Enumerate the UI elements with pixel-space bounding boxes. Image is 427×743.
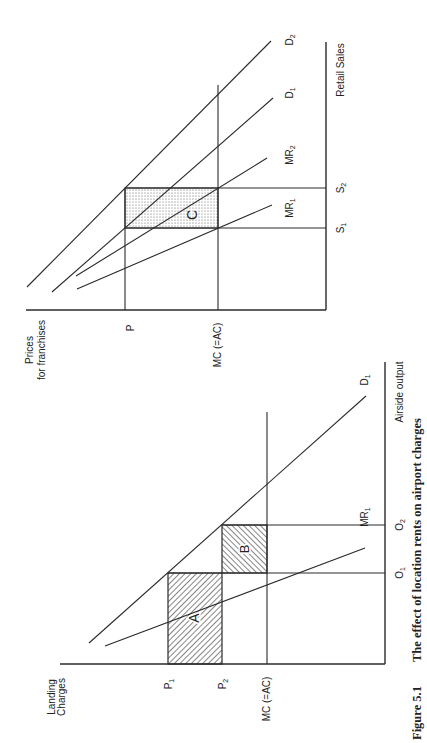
svg-text:MR1: MR1	[284, 198, 296, 218]
upper-d1-curve	[52, 98, 273, 292]
lower-label-d1: D1	[359, 374, 371, 385]
upper-tick-mc: MC (=AC)	[212, 323, 223, 368]
svg-text:D1: D1	[359, 374, 371, 385]
lower-tick-o1: O1	[394, 567, 406, 579]
svg-text:MR1: MR1	[359, 507, 371, 527]
lower-xlabel: Airside output	[394, 361, 405, 422]
figure-canvas: Prices for franchises P MC (=AC) S1 S2 R…	[0, 0, 427, 743]
lower-chart: Landing Charges P1 P2 MC (=AC) O1 O2 Air…	[46, 361, 406, 721]
svg-text:D1: D1	[284, 87, 296, 98]
upper-mr2-curve	[76, 158, 267, 276]
svg-text:P2: P2	[217, 679, 229, 690]
lower-tick-o2: O2	[394, 519, 406, 531]
lower-tick-mc: MC (=AC)	[261, 677, 272, 722]
upper-tick-s1: S1	[335, 223, 347, 234]
upper-label-d1: D1	[284, 87, 296, 98]
figure-number: Figure 5.1	[410, 686, 424, 740]
area-c	[125, 188, 218, 228]
svg-text:D2: D2	[284, 34, 296, 45]
upper-ylabel-line2: for franchises	[36, 320, 47, 380]
upper-tick-s2: S2	[335, 183, 347, 194]
figure-caption: Figure 5.1 The effect of location rents …	[410, 418, 424, 740]
lower-tick-p1: P1	[163, 679, 175, 690]
figure-svg: Prices for franchises P MC (=AC) S1 S2 R…	[0, 0, 427, 743]
upper-label-d2: D2	[284, 34, 296, 45]
upper-xlabel: Retail Sales	[335, 43, 346, 96]
upper-ylabel-line1: Prices	[24, 336, 35, 364]
upper-chart: Prices for franchises P MC (=AC) S1 S2 R…	[24, 34, 347, 380]
svg-text:O2: O2	[394, 519, 406, 531]
upper-tick-p: P	[125, 324, 136, 331]
svg-text:S1: S1	[335, 223, 347, 234]
lower-label-mr1: MR1	[359, 507, 371, 527]
upper-d2-curve	[27, 41, 271, 287]
lower-tick-p2: P2	[217, 679, 229, 690]
lower-area-b-label: B	[237, 545, 252, 554]
lower-d1-curve	[89, 396, 366, 643]
svg-text:O1: O1	[394, 567, 406, 579]
upper-area-c-label: C	[184, 210, 200, 220]
lower-ylabel-line2: Charges	[56, 678, 67, 716]
svg-text:S2: S2	[335, 183, 347, 194]
upper-label-mr2: MR2	[284, 145, 296, 165]
svg-text:MR2: MR2	[284, 145, 296, 165]
upper-label-mr1: MR1	[284, 198, 296, 218]
lower-area-a-label: A	[186, 613, 202, 623]
svg-text:P1: P1	[163, 679, 175, 690]
figure-title: The effect of location rents on airport …	[410, 418, 424, 662]
